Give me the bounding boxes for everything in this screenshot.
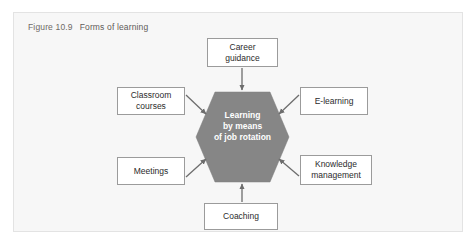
arrow-e-learning	[279, 95, 299, 114]
node-e-learning: E-learning	[300, 87, 368, 115]
figure-root: Figure 10.9Forms of learning Learning by…	[0, 0, 475, 252]
arrow-meetings	[186, 159, 206, 177]
arrow-classroom-courses	[186, 95, 206, 114]
figure-caption: Figure 10.9Forms of learning	[28, 22, 148, 32]
node-meetings-line1: Meetings	[134, 166, 169, 177]
node-classroom-courses: Classroom courses	[117, 87, 185, 115]
node-knowledge-management: Knowledge management	[300, 155, 372, 185]
node-classroom-courses-line1: Classroom	[131, 90, 172, 101]
node-knowledge-management-line2: management	[311, 170, 361, 181]
node-coaching: Coaching	[204, 203, 278, 230]
node-meetings: Meetings	[117, 157, 185, 185]
node-career-guidance-line2: guidance	[225, 53, 260, 64]
central-hexagon	[196, 92, 289, 182]
figure-caption-title: Forms of learning	[80, 22, 149, 32]
node-classroom-courses-line2: courses	[131, 101, 172, 112]
node-coaching-line1: Coaching	[223, 211, 259, 222]
figure-caption-label: Figure 10.9	[28, 22, 73, 32]
node-e-learning-line1: E-learning	[315, 96, 354, 107]
arrow-knowledge-management	[279, 159, 299, 176]
node-knowledge-management-line1: Knowledge	[311, 159, 361, 170]
node-career-guidance: Career guidance	[207, 38, 278, 67]
node-career-guidance-line1: Career	[225, 42, 260, 53]
